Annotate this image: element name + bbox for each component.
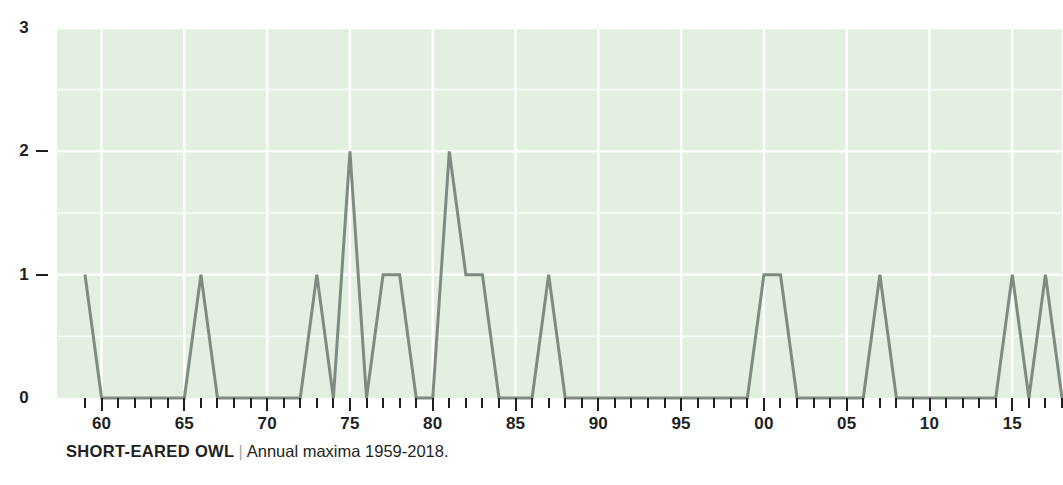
x-axis-minor-tick <box>962 398 964 408</box>
caption-description: Annual maxima 1959-2018. <box>247 442 449 460</box>
x-axis-major-tick <box>680 398 682 411</box>
x-axis-minor-tick <box>216 398 218 408</box>
x-axis-minor-tick <box>796 398 798 408</box>
x-axis-minor-tick <box>415 398 417 408</box>
y-axis-tick-label: 3 <box>19 18 29 38</box>
x-axis-minor-tick <box>465 398 467 408</box>
x-axis-minor-tick <box>912 398 914 408</box>
caption-separator: | <box>234 442 246 460</box>
x-axis-minor-tick <box>713 398 715 408</box>
x-axis-minor-tick <box>581 398 583 408</box>
x-axis-minor-tick <box>134 398 136 408</box>
x-axis-minor-tick <box>895 398 897 408</box>
x-axis-major-tick <box>1011 398 1013 411</box>
x-axis-minor-tick <box>200 398 202 408</box>
x-axis: 606570758085909500051015 <box>57 398 1062 438</box>
x-axis-tick-label: 80 <box>423 414 442 434</box>
x-axis-minor-tick <box>813 398 815 408</box>
x-axis-major-tick <box>929 398 931 411</box>
x-axis-minor-tick <box>978 398 980 408</box>
y-axis-tick-mark <box>36 150 48 152</box>
x-axis-major-tick <box>763 398 765 411</box>
x-axis-minor-tick <box>399 398 401 408</box>
x-axis-minor-tick <box>117 398 119 408</box>
x-axis-minor-tick <box>746 398 748 408</box>
x-axis-minor-tick <box>664 398 666 408</box>
x-axis-minor-tick <box>498 398 500 408</box>
plot-area <box>57 28 1062 398</box>
x-axis-minor-tick <box>995 398 997 408</box>
x-axis-minor-tick <box>697 398 699 408</box>
x-axis-minor-tick <box>84 398 86 408</box>
x-axis-major-tick <box>597 398 599 411</box>
x-axis-minor-tick <box>283 398 285 408</box>
x-axis-tick-label: 65 <box>175 414 194 434</box>
x-axis-minor-tick <box>233 398 235 408</box>
x-axis-tick-label: 85 <box>506 414 525 434</box>
x-axis-tick-label: 60 <box>92 414 111 434</box>
x-axis-tick-label: 15 <box>1003 414 1022 434</box>
x-axis-minor-tick <box>448 398 450 408</box>
x-axis-minor-tick <box>548 398 550 408</box>
chart-caption: SHORT-EARED OWL|Annual maxima 1959-2018. <box>66 442 449 461</box>
x-axis-major-tick <box>432 398 434 411</box>
x-axis-tick-label: 75 <box>340 414 359 434</box>
x-axis-minor-tick <box>250 398 252 408</box>
x-axis-tick-label: 90 <box>589 414 608 434</box>
y-axis-tick-label: 1 <box>19 265 29 285</box>
x-axis-minor-tick <box>1044 398 1046 408</box>
x-axis-minor-tick <box>614 398 616 408</box>
x-axis-minor-tick <box>150 398 152 408</box>
y-axis-tick-mark <box>36 274 48 276</box>
series-line-annual-maxima <box>57 28 1062 398</box>
x-axis-minor-tick <box>630 398 632 408</box>
x-axis-minor-tick <box>366 398 368 408</box>
x-axis-minor-tick <box>879 398 881 408</box>
x-axis-minor-tick <box>382 398 384 408</box>
x-axis-minor-tick <box>1028 398 1030 408</box>
x-axis-minor-tick <box>316 398 318 408</box>
x-axis-minor-tick <box>730 398 732 408</box>
x-axis-minor-tick <box>647 398 649 408</box>
y-axis: 0123 <box>0 0 57 420</box>
caption-species-name: SHORT-EARED OWL <box>66 442 234 460</box>
x-axis-major-tick <box>101 398 103 411</box>
x-axis-tick-label: 70 <box>257 414 276 434</box>
x-axis-minor-tick <box>481 398 483 408</box>
x-axis-minor-tick <box>829 398 831 408</box>
x-axis-tick-label: 00 <box>754 414 773 434</box>
y-axis-tick-label: 2 <box>19 141 29 161</box>
x-axis-minor-tick <box>779 398 781 408</box>
x-axis-minor-tick <box>862 398 864 408</box>
x-axis-major-tick <box>349 398 351 411</box>
x-axis-minor-tick <box>167 398 169 408</box>
x-axis-major-tick <box>846 398 848 411</box>
y-axis-tick-label: 0 <box>19 388 29 408</box>
x-axis-minor-tick <box>531 398 533 408</box>
x-axis-tick-label: 05 <box>837 414 856 434</box>
x-axis-minor-tick <box>564 398 566 408</box>
x-axis-major-tick <box>266 398 268 411</box>
x-axis-major-tick <box>515 398 517 411</box>
x-axis-minor-tick <box>332 398 334 408</box>
x-axis-tick-label: 10 <box>920 414 939 434</box>
x-axis-minor-tick <box>945 398 947 408</box>
x-axis-tick-label: 95 <box>671 414 690 434</box>
x-axis-minor-tick <box>299 398 301 408</box>
x-axis-major-tick <box>183 398 185 411</box>
